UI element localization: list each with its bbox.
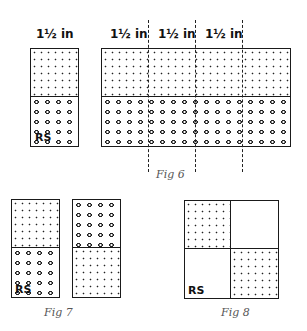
- fig6-strip-top-fabric: [101, 48, 291, 98]
- fig6-single-top-fabric: [30, 48, 79, 98]
- fig8-top-right-empty: [230, 200, 279, 250]
- fig8-caption: Fig 8: [221, 306, 250, 319]
- fig8-rs-label: RS: [188, 284, 204, 297]
- fig6-cut-line-1: [148, 20, 149, 172]
- fig6-single-width-label: 1½ in: [36, 27, 74, 41]
- fig7-right-bottom-fabric: [72, 247, 121, 298]
- fig6-strip-label-3: 1½ in: [205, 27, 243, 41]
- fig8-top-left-fabric: [184, 200, 232, 250]
- fig6-rs-label: RS: [35, 131, 51, 144]
- fig7-left-top-fabric: [11, 199, 60, 249]
- fig7-right-top-fabric: [72, 199, 121, 249]
- fig8-bottom-right-fabric: [230, 248, 279, 299]
- fig7-rs-label: RS: [15, 283, 31, 296]
- fig7-caption: Fig 7: [44, 306, 73, 319]
- fig6-caption: Fig 6: [156, 168, 185, 181]
- fig6-strip-label-1: 1½ in: [110, 27, 148, 41]
- fig6-strip-label-2: 1½ in: [158, 27, 196, 41]
- fig6-cut-line-2: [195, 20, 196, 172]
- fig6-cut-line-3: [242, 20, 243, 172]
- fig6-strip-bottom-fabric: [101, 96, 291, 147]
